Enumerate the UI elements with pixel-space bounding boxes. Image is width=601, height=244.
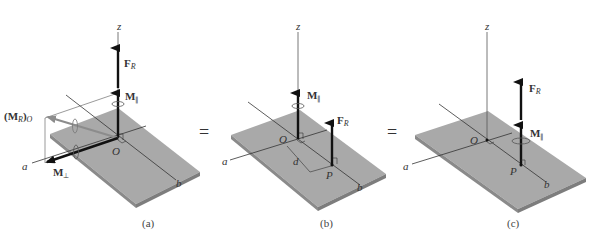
label-distance: d — [293, 155, 299, 167]
label-force: FR — [529, 82, 541, 96]
label-axis-a: a — [22, 160, 28, 172]
label-z: z — [295, 20, 301, 32]
figure-canvas: z FR M∥ (MR)O O a b M⊥ (a) = z M∥ — [0, 0, 601, 244]
plate — [415, 111, 586, 213]
label-point-p: P — [325, 169, 333, 181]
caption-a: (a) — [142, 217, 155, 230]
label-moment-resultant: (MR)O — [4, 110, 33, 124]
point-p-marker — [331, 164, 334, 167]
label-moment-perp: M⊥ — [53, 166, 69, 180]
label-axis-b: b — [357, 181, 363, 193]
label-axis-b: b — [176, 177, 182, 189]
panel-a: z FR M∥ (MR)O O a b M⊥ (a) — [4, 20, 200, 230]
label-force: FR — [124, 57, 136, 71]
point-p-marker — [520, 164, 523, 167]
equals-sign: = — [387, 122, 397, 142]
label-axis-a: a — [222, 155, 228, 167]
label-origin: O — [112, 145, 120, 157]
label-z: z — [116, 20, 122, 32]
caption-c: (c) — [507, 217, 520, 230]
panel-c: z FR M∥ O P a b (c) — [403, 20, 586, 230]
label-force: FR — [337, 114, 349, 128]
panel-b: z M∥ FR O d P a b (b) — [222, 20, 386, 230]
label-axis-a: a — [403, 160, 409, 172]
equals-sign: = — [199, 122, 209, 142]
origin-marker — [486, 139, 489, 142]
label-origin: O — [470, 134, 478, 146]
label-origin: O — [279, 133, 287, 145]
caption-b: (b) — [320, 217, 333, 230]
label-moment-parallel: M∥ — [125, 90, 139, 104]
label-axis-b: b — [544, 178, 550, 190]
label-moment-parallel: M∥ — [530, 127, 544, 141]
label-z: z — [484, 20, 490, 32]
label-point-p: P — [509, 165, 517, 177]
label-moment-parallel: M∥ — [307, 89, 321, 103]
plate — [231, 110, 386, 211]
